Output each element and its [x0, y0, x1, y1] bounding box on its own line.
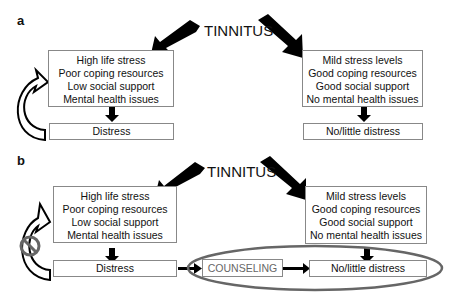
panel-a-no-distress-box: No/little distress [303, 123, 423, 140]
panel-a-title: TINNITUS [204, 22, 273, 39]
panel-b-distress-box: Distress [53, 260, 177, 277]
counseling-box: COUNSELING [202, 259, 283, 277]
panel-b-risk-factors-box: High life stress Poor coping resources L… [53, 186, 177, 243]
panel-a-distress-box: Distress [49, 123, 174, 140]
panel-b-no-distress-box: No/little distress [309, 260, 427, 277]
feedback-arrow-a [18, 70, 48, 140]
panel-label-a: a [17, 13, 24, 28]
panel-a-risk-factors-box: High life stress Poor coping resources L… [48, 50, 174, 107]
panel-b-protective-factors-box: Mild stress levels Good coping resources… [305, 186, 427, 244]
panel-a-protective-factors-box: Mild stress levels Good coping resources… [302, 50, 423, 107]
panel-label-b: b [17, 153, 25, 168]
panel-b-title: TINNITUS [207, 163, 276, 180]
